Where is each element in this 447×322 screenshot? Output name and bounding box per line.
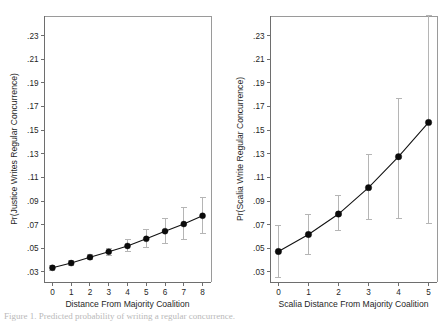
y-tick-label: .23 xyxy=(27,32,39,41)
data-point-marker xyxy=(395,153,401,159)
y-tick-label: .17 xyxy=(27,102,39,111)
data-point-marker xyxy=(162,228,168,234)
x-tick-label: 0 xyxy=(276,288,281,297)
data-point-marker xyxy=(305,231,311,237)
data-point-marker xyxy=(181,221,187,227)
y-tick-label: .17 xyxy=(253,102,265,111)
y-tick-label: .15 xyxy=(253,126,265,135)
figure-caption: Figure 1. Predicted probability of writi… xyxy=(4,312,235,321)
x-tick-label: 6 xyxy=(163,288,168,297)
data-point-marker xyxy=(425,119,431,125)
y-axis-title: Pr(Justice Writes Regular Concurrence) xyxy=(9,73,19,225)
x-axis-title: Distance From Majority Coalition xyxy=(65,299,189,309)
y-tick-label: .07 xyxy=(27,221,39,230)
right-panel-plot: .03.05.07.09.11.13.15.17.19.21.23012345S… xyxy=(224,0,447,310)
x-axis-title: Scalia Distance From Majority Coalition xyxy=(279,299,429,309)
y-tick-label: .19 xyxy=(27,79,39,88)
trend-line xyxy=(278,122,428,251)
x-tick-label: 3 xyxy=(366,288,371,297)
y-tick-label: .13 xyxy=(27,150,39,159)
y-tick-label: .03 xyxy=(27,268,39,277)
y-tick-label: .09 xyxy=(27,197,39,206)
data-point-marker xyxy=(365,184,371,190)
x-tick-label: 8 xyxy=(200,288,205,297)
y-tick-label: .13 xyxy=(253,150,265,159)
left-panel-plot: .03.05.07.09.11.13.15.17.19.21.230123456… xyxy=(0,0,224,310)
data-point-marker xyxy=(335,211,341,217)
x-tick-label: 2 xyxy=(88,288,93,297)
x-tick-label: 1 xyxy=(306,288,311,297)
chart-panel-right: .03.05.07.09.11.13.15.17.19.21.23012345S… xyxy=(224,0,447,310)
y-tick-label: .23 xyxy=(253,32,265,41)
data-point-marker xyxy=(49,265,55,271)
y-tick-label: .11 xyxy=(254,173,265,182)
y-tick-label: .05 xyxy=(27,244,39,253)
y-tick-label: .05 xyxy=(253,244,265,253)
x-tick-label: 4 xyxy=(125,288,130,297)
data-point-marker xyxy=(200,213,206,219)
chart-panel-left: .03.05.07.09.11.13.15.17.19.21.230123456… xyxy=(0,0,224,310)
x-tick-label: 2 xyxy=(336,288,341,297)
data-point-marker xyxy=(143,236,149,242)
x-tick-label: 0 xyxy=(50,288,55,297)
y-tick-label: .03 xyxy=(253,268,265,277)
data-layer xyxy=(49,197,205,271)
y-tick-label: .21 xyxy=(27,55,39,64)
figure-caption-strip: Figure 1. Predicted probability of writi… xyxy=(0,312,447,322)
data-point-marker xyxy=(275,248,281,254)
y-tick-label: .07 xyxy=(253,221,265,230)
y-tick-label: .21 xyxy=(253,55,265,64)
y-tick-label: .11 xyxy=(28,173,39,182)
x-tick-label: 5 xyxy=(426,288,431,297)
y-tick-label: .19 xyxy=(253,79,265,88)
data-point-marker xyxy=(68,260,74,266)
data-point-marker xyxy=(106,249,112,255)
x-tick-label: 1 xyxy=(69,288,74,297)
figure-container: .03.05.07.09.11.13.15.17.19.21.230123456… xyxy=(0,0,447,322)
x-tick-label: 7 xyxy=(182,288,187,297)
y-tick-label: .09 xyxy=(253,197,265,206)
y-axis-title: Pr(Scalia Write Regular Concurrence) xyxy=(235,77,245,221)
x-tick-label: 4 xyxy=(396,288,401,297)
x-tick-label: 3 xyxy=(106,288,111,297)
data-point-marker xyxy=(87,254,93,260)
data-layer xyxy=(275,15,432,277)
y-tick-label: .15 xyxy=(27,126,39,135)
data-point-marker xyxy=(125,243,131,249)
x-tick-label: 5 xyxy=(144,288,149,297)
